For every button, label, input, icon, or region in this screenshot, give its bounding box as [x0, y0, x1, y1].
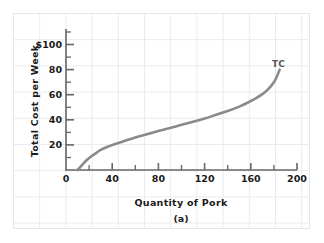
y-tick-label-60: 60	[49, 89, 63, 100]
total-cost-curve-chart: 20406080$100 04080120160200 TC Total Cos…	[0, 0, 324, 243]
y-tick-label-80: 80	[49, 64, 63, 75]
y-tick-label-20: 20	[49, 139, 63, 150]
x-tick-label-200: 200	[287, 173, 307, 184]
tc-series-label: TC	[272, 59, 285, 69]
x-axis-title: Quantity of Pork	[134, 197, 227, 208]
y-tick-label-40: 40	[49, 114, 63, 125]
x-tick-label-0: 0	[63, 173, 70, 184]
x-tick-label-120: 120	[195, 173, 215, 184]
panel-label: (a)	[173, 213, 188, 224]
chart-figure: 20406080$100 04080120160200 TC Total Cos…	[0, 0, 324, 243]
x-tick-label-40: 40	[106, 173, 120, 184]
y-axis-title: Total Cost per Week	[29, 44, 40, 157]
x-tick-label-160: 160	[241, 173, 261, 184]
x-tick-label-80: 80	[152, 173, 166, 184]
